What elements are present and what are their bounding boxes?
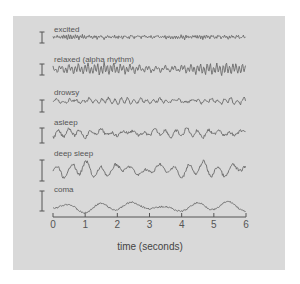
x-tick-label: 0 <box>50 219 56 230</box>
eeg-trace <box>53 34 246 40</box>
trace-label: asleep <box>54 118 78 127</box>
scale-bar-icon <box>40 64 45 75</box>
scale-bar-icon <box>40 191 45 211</box>
scale-bar-icon <box>40 160 45 181</box>
eeg-trace <box>53 128 246 139</box>
x-tick-label: 5 <box>211 219 217 230</box>
scale-bar-icon <box>40 100 45 112</box>
x-axis-label: time (seconds) <box>0 241 300 252</box>
trace-label: relaxed (alpha rhythm) <box>54 55 134 64</box>
trace-label: coma <box>54 185 74 194</box>
x-axis-line <box>53 213 246 217</box>
x-tick-label: 3 <box>147 219 153 230</box>
eeg-trace <box>53 160 246 179</box>
scale-bar-icon <box>40 32 45 43</box>
x-tick-label: 2 <box>115 219 121 230</box>
x-tick-label: 1 <box>82 219 88 230</box>
trace-label: excited <box>54 25 79 34</box>
x-tick-label: 4 <box>179 219 185 230</box>
eeg-trace <box>53 62 246 75</box>
scale-bar-icon <box>40 128 45 143</box>
eeg-trace <box>53 201 246 213</box>
trace-label: deep sleep <box>54 149 93 158</box>
eeg-trace <box>53 97 246 105</box>
x-tick-label: 6 <box>243 219 249 230</box>
trace-label: drowsy <box>54 88 79 97</box>
